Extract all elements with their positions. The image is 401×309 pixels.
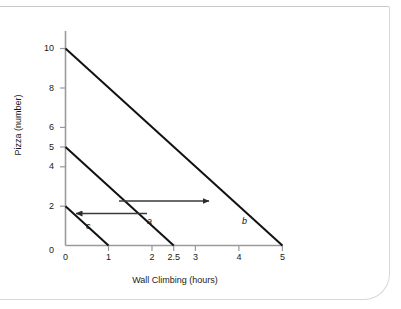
x-axis-title: Wall Climbing (hours) — [65, 275, 285, 285]
x-tick-label-2-5: 2.5 — [165, 252, 183, 262]
y-tick-label-5: 5 — [36, 142, 54, 152]
curve-label-a: a — [147, 216, 152, 226]
y-tick-label-2: 2 — [36, 201, 54, 211]
y-tick-label-8: 8 — [36, 83, 54, 93]
budget-line-b — [66, 49, 283, 246]
y-tick-label-10: 10 — [36, 43, 54, 53]
chart-canvas — [0, 0, 401, 309]
y-tick-label-4: 4 — [36, 161, 54, 171]
x-tick-label-0: 0 — [59, 252, 72, 262]
y-axis-title: Pizza (number) — [13, 80, 23, 170]
x-tick-label-4: 4 — [232, 252, 245, 262]
x-axis-ticks — [109, 246, 283, 252]
y-tick-label-0: 0 — [36, 245, 54, 255]
curve-label-c: c — [86, 221, 91, 231]
y-tick-label-6: 6 — [36, 122, 54, 132]
budget-line-a — [66, 147, 174, 246]
curve-label-b: b — [242, 216, 247, 226]
x-tick-label-5: 5 — [276, 252, 289, 262]
y-axis-ticks — [60, 49, 66, 207]
x-tick-label-1: 1 — [102, 252, 115, 262]
x-tick-label-2: 2 — [146, 252, 159, 262]
x-tick-label-3: 3 — [189, 252, 202, 262]
